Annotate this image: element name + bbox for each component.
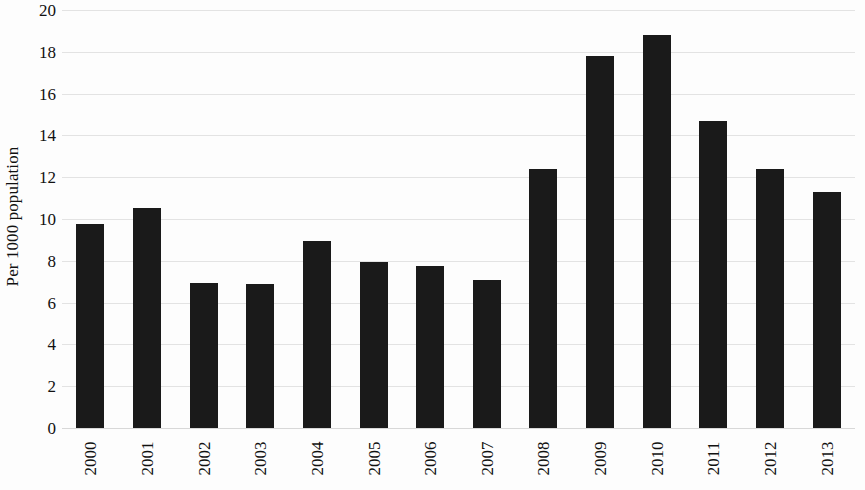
bar [643,35,671,428]
bar [473,280,501,428]
x-tick-label: 2001 [138,442,155,476]
bar [303,241,331,428]
x-tick-label: 2012 [762,442,779,476]
x-tick-label: 2006 [422,442,439,476]
bar [360,262,388,428]
bar [76,224,104,428]
y-tick-label: 16 [26,85,56,102]
bar [529,169,557,428]
x-tick-label: 2000 [82,442,99,476]
x-tick: 2005 [346,430,402,488]
x-tick: 2012 [742,430,798,488]
bar [133,208,161,428]
y-tick-label: 20 [26,2,56,19]
x-tick: 2006 [402,430,458,488]
y-tick-label: 18 [26,43,56,60]
bar [190,283,218,428]
x-tick: 2001 [119,430,175,488]
x-tick-label: 2009 [592,442,609,476]
x-tick: 2008 [515,430,571,488]
bar-chart: Per 1000 population 20181614121086420 20… [0,0,865,490]
x-tick: 2013 [799,430,855,488]
x-tick-label: 2007 [478,442,495,476]
y-tick-label: 8 [26,252,56,269]
bar-series [62,10,855,428]
bar [756,169,784,428]
y-tick-label: 6 [26,294,56,311]
y-tick-label: 0 [26,420,56,437]
bar [416,266,444,428]
x-tick-label: 2013 [818,442,835,476]
x-axis-tick-labels: 2000200120022003200420052006200720082009… [62,430,855,490]
x-tick-label: 2005 [365,442,382,476]
x-tick-label: 2008 [535,442,552,476]
y-tick-label: 4 [26,336,56,353]
x-tick: 2004 [289,430,345,488]
bar [586,56,614,428]
x-tick: 2009 [572,430,628,488]
bar [699,121,727,428]
x-tick: 2000 [62,430,118,488]
axis-baseline [62,428,855,429]
x-tick: 2010 [629,430,685,488]
y-tick-label: 14 [26,127,56,144]
x-tick: 2003 [232,430,288,488]
y-tick-label: 2 [26,378,56,395]
plot-area [62,10,855,428]
x-tick: 2011 [685,430,741,488]
x-tick-label: 2010 [648,442,665,476]
bar [813,192,841,428]
y-tick-label: 12 [26,169,56,186]
x-tick: 2007 [459,430,515,488]
y-axis-title: Per 1000 population [0,0,26,432]
y-axis-tick-labels: 20181614121086420 [26,0,56,440]
y-tick-label: 10 [26,211,56,228]
bar [246,284,274,428]
x-tick-label: 2004 [308,442,325,476]
x-tick-label: 2011 [705,442,722,475]
x-tick: 2002 [176,430,232,488]
y-axis-title-label: Per 1000 population [5,146,22,286]
x-tick-label: 2003 [252,442,269,476]
x-tick-label: 2002 [195,442,212,476]
